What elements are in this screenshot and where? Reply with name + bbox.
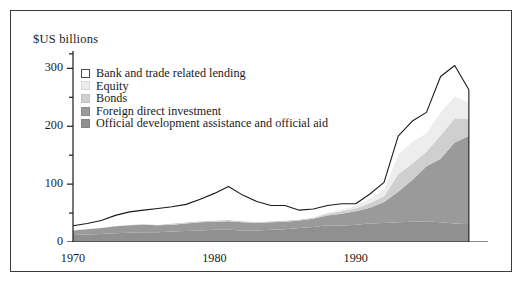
x-tick-label: 1990 [333, 251, 379, 266]
chart-figure: $US billions Bank and trade related lend… [10, 10, 512, 272]
x-tick-label: 1970 [50, 251, 96, 266]
plot-area: 0100200300197019801990 [63, 51, 488, 242]
x-tick-label: 1980 [191, 251, 237, 266]
y-tick-label: 300 [33, 60, 63, 75]
y-axis-title: $US billions [33, 32, 98, 47]
y-tick-label: 0 [33, 234, 63, 249]
y-tick-label: 100 [33, 176, 63, 191]
y-tick-label: 200 [33, 118, 63, 133]
stacked-area-chart [63, 51, 488, 242]
